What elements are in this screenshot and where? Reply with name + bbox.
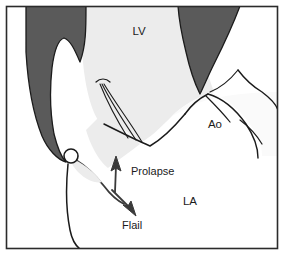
mitral-valve-diagram: LV Ao LA Prolapse Flail (0, 0, 284, 255)
annotation-flail: Flail (122, 219, 142, 231)
prolapse-arrow-shaft (115, 166, 116, 192)
diagram-content: LV Ao LA Prolapse Flail (6, 6, 278, 249)
chamber-label-la: LA (183, 195, 197, 207)
annotation-prolapse: Prolapse (131, 165, 174, 177)
chamber-label-ao: Ao (208, 118, 222, 130)
mitral-annulus (64, 149, 78, 163)
chamber-label-lv: LV (132, 25, 146, 37)
diagram-canvas: LV Ao LA Prolapse Flail (0, 0, 284, 255)
